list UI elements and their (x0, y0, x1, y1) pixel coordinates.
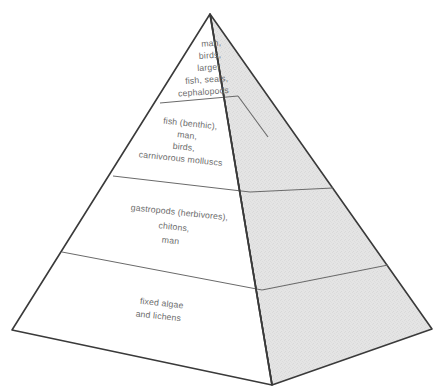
pyramid-diagram: man, birds, larger fish, seals, cephalop… (0, 0, 437, 392)
third-tier-line-3: man (161, 235, 179, 247)
top-tier-line-1: man, (201, 37, 222, 48)
second-tier-line-2: man, (177, 129, 198, 141)
top-tier-line-2: birds, (199, 49, 222, 61)
top-tier-line-3: larger (197, 61, 221, 73)
pyramid-graphic: man, birds, larger fish, seals, cephalop… (0, 0, 437, 392)
